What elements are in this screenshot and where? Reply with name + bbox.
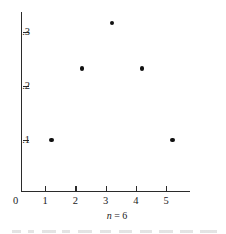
x-axis-label-value: = 6 (112, 210, 128, 221)
y-tick-label: .2 (8, 81, 30, 92)
x-axis-label: n = 6 (0, 211, 226, 221)
x-tick-mark (75, 186, 76, 192)
x-tick-mark (106, 186, 107, 192)
x-tick-label: 3 (98, 196, 114, 207)
x-tick-label: 1 (37, 196, 53, 207)
x-tick-label: 2 (67, 196, 83, 207)
data-point (49, 138, 54, 143)
data-point (80, 66, 85, 71)
x-tick-label: 4 (128, 196, 144, 207)
data-point (110, 21, 115, 26)
scatter-plot-figure: .1 .2 .3 0 1 2 3 4 5 n = 6 (0, 0, 226, 234)
x-tick-mark (45, 186, 46, 192)
x-tick-mark (136, 186, 137, 192)
data-point (170, 138, 175, 143)
x-tick-label: 5 (158, 196, 174, 207)
y-tick-label: .1 (8, 135, 30, 146)
x-tick-mark (166, 186, 167, 192)
y-tick-label: .3 (8, 27, 30, 38)
page-caption-artifact (12, 230, 217, 234)
data-point (140, 66, 145, 71)
x-tick-label-origin: 0 (8, 196, 24, 207)
y-axis-line (21, 12, 22, 192)
